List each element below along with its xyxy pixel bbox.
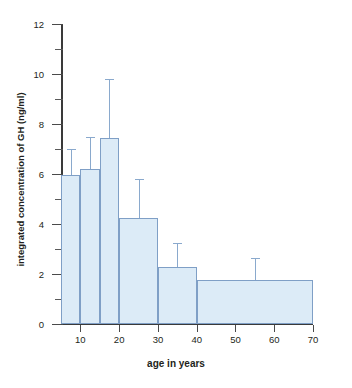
y-tick-label: 12 (24, 19, 44, 30)
bar (80, 169, 99, 324)
error-bar-line (139, 179, 140, 218)
bar (158, 267, 197, 325)
x-tick-label: 70 (308, 334, 319, 345)
y-tick-label: 0 (24, 319, 44, 330)
x-tick (197, 325, 198, 332)
error-bar-line (109, 79, 110, 138)
x-tick-label: 60 (269, 334, 280, 345)
x-tick-label: 30 (153, 334, 164, 345)
x-tick (235, 325, 236, 332)
y-tick-label: 4 (24, 219, 44, 230)
bar (197, 280, 313, 324)
gh-concentration-bar-chart: 024681012 10203040506070 age in years in… (0, 0, 352, 388)
x-tick (119, 325, 120, 332)
x-tick (80, 325, 81, 332)
x-tick (158, 325, 159, 332)
bars-layer (61, 24, 313, 324)
error-bar-cap (251, 258, 260, 259)
error-bar-line (90, 137, 91, 170)
error-bar-cap (105, 79, 114, 80)
x-tick (313, 325, 314, 332)
error-bar-cap (67, 149, 76, 150)
y-tick-label: 8 (24, 119, 44, 130)
bar (119, 218, 158, 324)
y-tick-label: 2 (24, 269, 44, 280)
y-tick-label: 6 (24, 169, 44, 180)
error-bar-line (177, 243, 178, 267)
x-tick-label: 20 (114, 334, 125, 345)
y-tick-major (52, 324, 63, 325)
x-tick (274, 325, 275, 332)
error-bar-cap (86, 137, 95, 138)
error-bar-cap (135, 179, 144, 180)
x-tick-label: 50 (230, 334, 241, 345)
x-axis-title: age in years (0, 358, 352, 369)
bar (100, 138, 119, 324)
error-bar-line (71, 149, 72, 175)
x-tick-label: 40 (191, 334, 202, 345)
x-tick-label: 10 (75, 334, 86, 345)
error-bar-line (255, 258, 256, 281)
error-bar-cap (173, 243, 182, 244)
y-axis-title: integrated concentration of GH (ng/ml) (15, 30, 26, 330)
bar (61, 175, 80, 324)
y-tick-label: 10 (24, 69, 44, 80)
